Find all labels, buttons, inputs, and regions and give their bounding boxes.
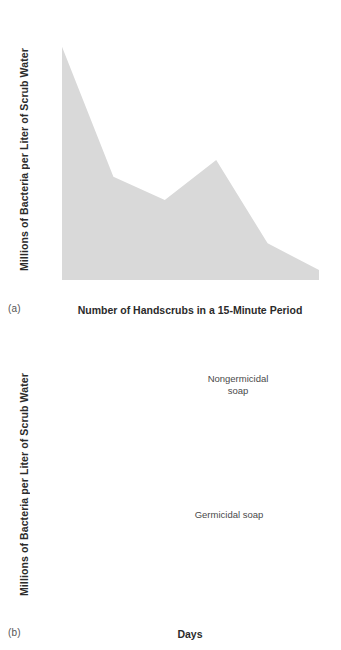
- figure-a-plot-area: [0, 0, 341, 325]
- figure-b-x-axis-title: Days: [45, 628, 335, 640]
- figure-b-panel-label: (b): [8, 627, 21, 638]
- figure-a-x-axis-title: Number of Handscrubs in a 15-Minute Peri…: [45, 304, 335, 316]
- figure-b-line-chart: Millions of Bacteria per Liter of Scrub …: [0, 325, 341, 650]
- figure-a-y-axis-title: Millions of Bacteria per Liter of Scrub …: [18, 40, 30, 280]
- figure-a-panel-label: (a): [8, 303, 21, 314]
- series-label-germicidal-soap: Germicidal soap: [168, 509, 290, 521]
- figure-a-area-chart: Millions of Bacteria per Liter of Scrub …: [0, 0, 341, 325]
- area-fill: [62, 47, 319, 280]
- figure-b-y-axis-title: Millions of Bacteria per Liter of Scrub …: [18, 360, 30, 610]
- series-label-nongermicidal-soap: Nongermicidal soap: [182, 373, 294, 397]
